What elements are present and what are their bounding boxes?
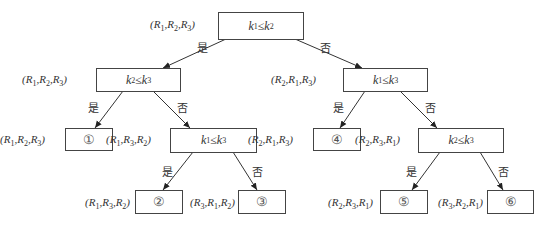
edge-label-no: 否 [252, 163, 263, 179]
tuple-label-root: (R1,R2,R3) [150, 18, 195, 33]
edge-label-no: 否 [498, 163, 509, 179]
edge-label-no: 否 [425, 99, 436, 115]
tuple-label-n5: (R2,R1,R3) [248, 133, 293, 148]
leaf-node-6: ⑥ [487, 190, 534, 214]
edge-n0-n1 [163, 39, 226, 68]
tuple-label-n7: (R1,R3,R2) [85, 196, 130, 211]
edge-label-yes: 是 [197, 39, 208, 55]
tuple-label-n6: (R2,R3,R1) [355, 133, 400, 148]
edge-label-no: 否 [320, 39, 331, 55]
decision-node-n4: k1≤k3 [170, 128, 257, 153]
leaf-node-3: ③ [238, 190, 286, 214]
tuple-label-n3: (R1,R2,R3) [0, 133, 45, 148]
leaf-node-4: ④ [313, 128, 361, 151]
edge-label-yes: 是 [406, 163, 417, 179]
tuple-label-n1: (R1,R2,R3) [22, 73, 67, 88]
leaf-node-2: ② [135, 190, 183, 214]
decision-node-n1: k2≤k3 [96, 68, 181, 92]
tuple-label-n2: (R2,R1,R3) [271, 73, 316, 88]
tuple-label-n10: (R3,R2,R1) [438, 196, 483, 211]
tuple-label-n8: (R3,R1,R2) [190, 196, 235, 211]
tuple-label-n9: (R2,R3,R1) [328, 196, 373, 211]
edge-n1-n3 [95, 91, 123, 128]
edge-label-no: 否 [177, 99, 188, 115]
decision-node-root: k1≤k2 [218, 12, 304, 40]
edge-label-yes: 是 [162, 163, 173, 179]
edge-label-yes: 是 [88, 99, 99, 115]
decision-node-n6: k2≤k3 [418, 128, 504, 153]
tuple-label-n4: (R1,R3,R2) [106, 133, 151, 148]
edge-label-yes: 是 [333, 99, 344, 115]
decision-node-n2: k1≤k3 [343, 68, 428, 92]
leaf-node-5: ⑤ [380, 190, 428, 214]
